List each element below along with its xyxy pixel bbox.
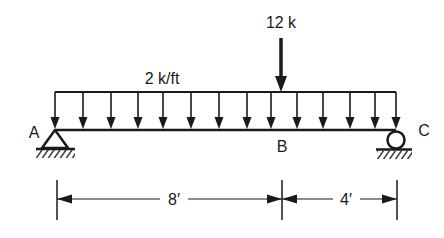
load-arrow-icon (319, 92, 328, 129)
beam-diagram: 12 k 2 k/ft A C B 8′ (0, 0, 444, 238)
span-bc-label: 4′ (340, 191, 352, 208)
load-arrow-icon (79, 92, 88, 129)
load-arrow-icon (215, 92, 224, 129)
point-load-arrow-icon (275, 38, 287, 92)
distributed-load-arrows (51, 92, 401, 129)
load-arrow-icon (346, 92, 355, 129)
load-arrow-icon (107, 92, 116, 129)
load-arrow-icon (243, 92, 252, 129)
load-arrow-icon (51, 92, 60, 129)
load-arrow-icon (267, 92, 276, 129)
load-arrow-icon (392, 92, 401, 129)
load-arrow-icon (159, 92, 168, 129)
point-b-label: B (277, 138, 288, 155)
arrowhead-left-icon (282, 195, 297, 204)
pin-support-icon (36, 130, 75, 158)
load-arrow-icon (187, 92, 196, 129)
span-ab-label: 8′ (168, 191, 180, 208)
roller-support-icon (376, 132, 412, 160)
distributed-load-label: 2 k/ft (145, 70, 180, 87)
load-arrow-icon (293, 92, 302, 129)
load-arrow-icon (371, 92, 380, 129)
arrowhead-left-icon (57, 195, 72, 204)
arrowhead-right-icon (382, 195, 397, 204)
load-arrow-icon (134, 92, 143, 129)
point-load-label: 12 k (266, 14, 297, 31)
arrowhead-right-icon (267, 195, 282, 204)
support-c-label: C (418, 122, 430, 139)
support-a-label: A (29, 124, 40, 141)
